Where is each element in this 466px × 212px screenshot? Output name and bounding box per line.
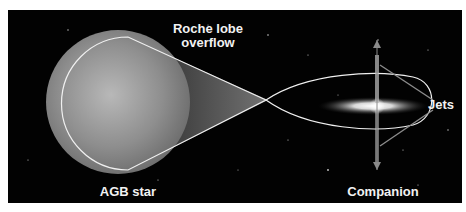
diagram-panel: Roche lobe overflow AGB star Companion J… — [8, 10, 462, 203]
label-jets: Jets — [428, 98, 462, 112]
label-roche-lobe-line1: Roche lobe — [158, 22, 258, 36]
label-agb-star: AGB star — [88, 185, 168, 199]
jet-arrow-up-icon — [373, 40, 381, 48]
label-roche-lobe-line2: overflow — [158, 36, 258, 50]
label-roche-lobe-overflow: Roche lobe overflow — [158, 22, 258, 50]
jet-arrow-down-icon — [373, 162, 381, 170]
agb-star — [46, 30, 190, 174]
label-companion: Companion — [338, 185, 428, 199]
